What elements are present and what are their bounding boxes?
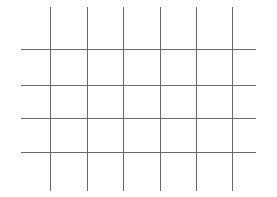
horizontal-grid-line bbox=[21, 85, 256, 86]
vertical-grid-line bbox=[123, 7, 124, 191]
vertical-grid-line bbox=[50, 7, 51, 191]
horizontal-grid-line bbox=[21, 49, 256, 50]
horizontal-grid-line bbox=[21, 118, 256, 119]
vertical-grid-line bbox=[232, 7, 233, 191]
vertical-grid-line bbox=[87, 7, 88, 191]
vertical-grid-line bbox=[160, 7, 161, 191]
grid-figure bbox=[0, 0, 277, 197]
horizontal-grid-line bbox=[21, 152, 256, 153]
vertical-grid-line bbox=[196, 7, 197, 191]
